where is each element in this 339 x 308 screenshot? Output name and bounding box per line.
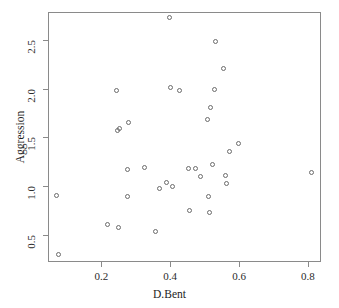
y-axis-tick-label: 1.5 <box>25 137 37 177</box>
data-point <box>213 39 218 44</box>
data-point <box>187 208 192 213</box>
data-point <box>125 194 130 199</box>
x-axis-tick <box>239 262 240 267</box>
data-point <box>309 170 314 175</box>
x-axis-tick <box>101 262 102 267</box>
data-point <box>186 166 191 171</box>
data-point <box>236 141 241 146</box>
data-point <box>157 186 162 191</box>
data-point <box>207 210 212 215</box>
y-axis-tick <box>43 40 48 41</box>
scatter-plot-figure: 0.20.40.60.80.51.01.52.02.5 D.Bent Aggre… <box>0 0 339 308</box>
data-point <box>210 162 215 167</box>
data-point <box>126 120 131 125</box>
y-axis-tick <box>43 186 48 187</box>
data-point <box>198 174 203 179</box>
y-axis-tick-label: 0.5 <box>25 235 37 275</box>
y-axis-tick-label: 2.0 <box>25 89 37 129</box>
data-point <box>221 66 226 71</box>
x-axis-tick <box>308 262 309 267</box>
y-axis-tick-label: 2.5 <box>25 40 37 80</box>
y-axis-tick <box>43 235 48 236</box>
data-point <box>223 173 228 178</box>
x-axis-label: D.Bent <box>0 288 339 300</box>
data-point <box>170 184 175 189</box>
data-point <box>167 15 172 20</box>
data-point <box>168 85 173 90</box>
data-point <box>227 149 232 154</box>
data-point <box>117 126 122 131</box>
data-point <box>56 252 61 257</box>
x-axis-tick-label: 0.4 <box>150 270 190 282</box>
data-point <box>54 193 59 198</box>
y-axis-label: Aggression <box>14 12 26 262</box>
data-point <box>105 222 110 227</box>
x-axis-tick-label: 0.6 <box>219 270 259 282</box>
data-point <box>125 167 130 172</box>
y-axis-tick-label: 1.0 <box>25 186 37 226</box>
y-axis-tick <box>43 137 48 138</box>
data-point <box>208 105 213 110</box>
x-axis-tick <box>170 262 171 267</box>
data-point <box>153 229 158 234</box>
data-point <box>224 181 229 186</box>
data-point <box>193 166 198 171</box>
data-point <box>114 88 119 93</box>
x-axis-tick-label: 0.2 <box>81 270 121 282</box>
data-point <box>177 88 182 93</box>
data-point <box>164 180 169 185</box>
y-axis-tick <box>43 89 48 90</box>
data-point <box>142 165 147 170</box>
data-point <box>206 194 211 199</box>
data-point <box>212 87 217 92</box>
x-axis-tick-label: 0.8 <box>288 270 328 282</box>
data-point <box>116 225 121 230</box>
data-point <box>205 117 210 122</box>
